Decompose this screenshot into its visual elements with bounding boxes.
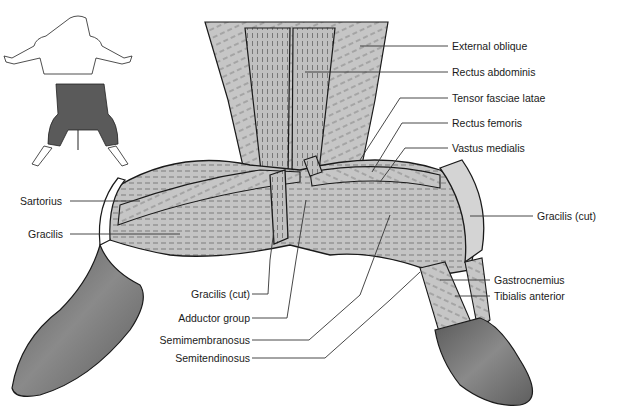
label-tibialis-anterior: Tibialis anterior (494, 290, 565, 302)
label-gracilis: Gracilis (28, 228, 63, 240)
label-gracilis-cut-bottom: Gracilis (cut) (191, 288, 250, 300)
label-gastrocnemius: Gastrocnemius (494, 274, 565, 286)
label-rectus-abdominis: Rectus abdominis (452, 66, 535, 78)
right-foot (435, 318, 533, 405)
muscle-illustration (0, 0, 619, 419)
label-semitendinosus: Semitendinosus (175, 352, 250, 364)
anatomy-figure: External oblique Rectus abdominis Tensor… (0, 0, 619, 419)
label-rectus-femoris: Rectus femoris (452, 117, 522, 129)
left-foot (12, 245, 143, 396)
orientation-inset (4, 16, 132, 166)
label-sartorius: Sartorius (20, 195, 62, 207)
label-semimembranosus: Semimembranosus (160, 334, 250, 346)
label-tensor-fasciae-latae: Tensor fasciae latae (452, 92, 545, 104)
label-adductor-group: Adductor group (178, 312, 250, 324)
label-external-oblique: External oblique (452, 40, 527, 52)
label-vastus-medialis: Vastus medialis (452, 142, 525, 154)
label-gracilis-cut-right: Gracilis (cut) (537, 210, 596, 222)
